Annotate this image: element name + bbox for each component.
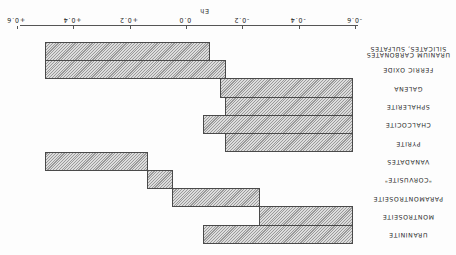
row-label: PYRITE [362,134,454,152]
x-tick-mark [242,26,243,29]
x-tick-label: +0.4 [57,16,87,24]
x-tick-mark [130,26,131,29]
x-tick-label: -0.2 [226,16,256,24]
row-label-line: FERRIC OXIDE [383,67,434,74]
row-label: MONTROSEITE [362,207,454,225]
range-bar [226,97,354,116]
row-label: CHALCOCITE [362,116,454,134]
row-label-line: PYRITE [396,140,421,147]
row-label-line: URANINITE [389,232,428,239]
range-bar [147,170,173,189]
row-label-line: CHALCOCITE [385,122,431,129]
x-tick-mark [73,26,74,29]
row-label-line: PARAMONTROSEITE [373,195,443,202]
row-label: "CORVUSITE" [362,171,454,189]
row-label: FERRIC OXIDE [362,61,454,79]
x-tick-mark [17,26,18,29]
x-axis-line [20,25,358,26]
row-label: GALENA [362,79,454,97]
row-label-line: GALENA [394,85,423,92]
row-label-line: SPHALERITE [386,103,430,110]
row-label-line: "CORVUSITE" [384,177,432,184]
x-axis-title: Eh [200,7,209,15]
row-label-line: MONTROSEITE [382,213,434,220]
x-tick-label: -0.6 [339,16,369,24]
range-bar [45,152,148,171]
eh-range-chart: URANINITEMONTROSEITEPARAMONTROSEITE"CORV… [0,0,456,255]
range-bar [226,133,354,152]
range-bar [45,60,226,79]
x-tick-label: +0.6 [1,16,31,24]
row-label: SPHALERITE [362,98,454,116]
x-tick-label: +0.2 [114,16,144,24]
x-tick-label: 0.0 [170,16,200,24]
x-tick-label: -0.4 [283,16,313,24]
row-label-line: SILICATES, SULFATES [366,45,450,52]
range-bar [203,225,353,244]
range-bar [220,78,354,97]
x-tick-mark [186,26,187,29]
row-label: URANIUM CARBONATESSILICATES, SULFATES [362,43,454,61]
row-label: URANINITE [362,226,454,244]
range-bar [203,115,353,134]
x-tick-mark [355,26,356,29]
x-tick-mark [299,26,300,29]
range-bar [259,206,353,225]
row-label: VANADATES [362,153,454,171]
range-bar [172,188,260,207]
range-bar [45,42,210,61]
row-label: PARAMONTROSEITE [362,189,454,207]
row-label-line: VANADATES [387,158,429,165]
